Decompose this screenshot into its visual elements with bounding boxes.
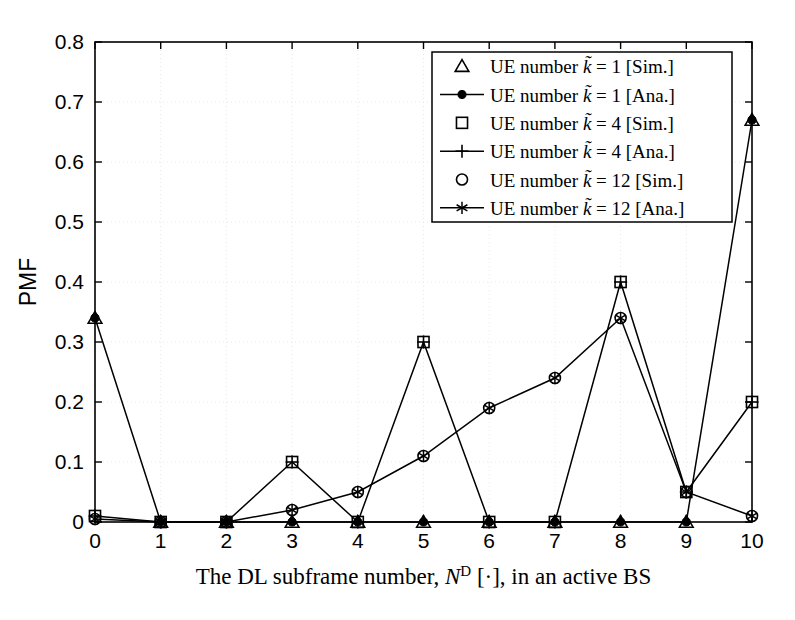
y-tick-label: 0.7 bbox=[55, 90, 84, 113]
y-tick-label: 0 bbox=[72, 510, 84, 533]
legend-item-label: UE number k̃ = 4 [Ana.] bbox=[490, 141, 675, 162]
x-tick-label: 10 bbox=[740, 529, 763, 552]
y-tick-label: 0.1 bbox=[55, 450, 84, 473]
pmf-chart-figure: 01234567891000.10.20.30.40.50.60.70.8 PM… bbox=[0, 0, 795, 620]
legend-item-label: UE number k̃ = 12 [Ana.] bbox=[490, 198, 684, 219]
legend-item-2[interactable]: UE number k̃ = 4 [Sim.] bbox=[456, 113, 673, 134]
y-tick-label: 0.2 bbox=[55, 390, 84, 413]
legend-item-4[interactable]: UE number k̃ = 12 [Sim.] bbox=[456, 170, 683, 191]
legend-item-label: UE number k̃ = 1 [Sim.] bbox=[490, 56, 674, 77]
x-tick-label: 6 bbox=[483, 529, 495, 552]
legend-item-label: UE number k̃ = 4 [Sim.] bbox=[490, 113, 674, 134]
legend-item-label: UE number k̃ = 12 [Sim.] bbox=[490, 170, 683, 191]
y-tick-label: 0.6 bbox=[55, 150, 84, 173]
y-tick-label: 0.4 bbox=[55, 270, 85, 293]
chart-legend: UE number k̃ = 1 [Sim.]UE number k̃ = 1 … bbox=[432, 52, 732, 222]
x-tick-label: 0 bbox=[89, 529, 101, 552]
y-tick-label: 0.3 bbox=[55, 330, 84, 353]
y-axis-title: PMF bbox=[15, 258, 41, 307]
legend-box bbox=[432, 52, 732, 222]
x-tick-label: 4 bbox=[352, 529, 364, 552]
x-tick-label: 2 bbox=[221, 529, 233, 552]
x-tick-label: 5 bbox=[418, 529, 430, 552]
chart-canvas: 01234567891000.10.20.30.40.50.60.70.8 PM… bbox=[0, 0, 795, 620]
y-tick-label: 0.8 bbox=[55, 30, 84, 53]
y-tick-label: 0.5 bbox=[55, 210, 84, 233]
legend-item-label: UE number k̃ = 1 [Ana.] bbox=[490, 85, 675, 106]
x-axis-title: The DL subframe number, ND [·], in an ac… bbox=[196, 563, 652, 589]
x-tick-label: 9 bbox=[680, 529, 692, 552]
x-tick-label: 8 bbox=[615, 529, 627, 552]
x-tick-label: 7 bbox=[549, 529, 561, 552]
x-tick-label: 3 bbox=[286, 529, 298, 552]
x-tick-label: 1 bbox=[155, 529, 167, 552]
